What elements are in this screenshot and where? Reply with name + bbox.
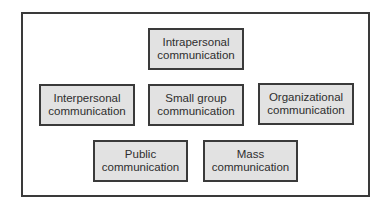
box-label: Mass communication — [212, 148, 289, 174]
box-label: Organizational communication — [267, 91, 344, 117]
box-label: Intrapersonal communication — [157, 36, 234, 62]
box-mass-communication: Mass communication — [203, 140, 298, 182]
box-public-communication: Public communication — [93, 140, 188, 182]
box-label: Public communication — [102, 148, 179, 174]
box-interpersonal-communication: Interpersonal communication — [39, 84, 135, 126]
box-organizational-communication: Organizational communication — [258, 83, 354, 125]
box-intrapersonal-communication: Intrapersonal communication — [148, 28, 244, 70]
box-label: Small group communication — [157, 92, 234, 118]
box-small-group-communication: Small group communication — [148, 84, 244, 126]
box-label: Interpersonal communication — [48, 92, 125, 118]
